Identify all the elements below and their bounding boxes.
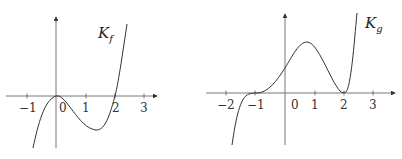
tick-label: −1 (19, 101, 37, 115)
tick-label: −1 (247, 98, 265, 112)
curve-kg (232, 13, 357, 145)
tick-label: 0 (291, 98, 299, 112)
graph-kf: −1 0 1 2 3 Kf (6, 17, 157, 148)
tick-label: 2 (340, 98, 348, 112)
graph-kg: −2 −1 0 1 2 3 Kg (206, 13, 395, 145)
curve-label-kg: Kg (364, 14, 383, 34)
tick-label: 1 (311, 98, 319, 112)
tick-label: 3 (369, 98, 377, 112)
curve-label-kf: Kf (97, 24, 115, 44)
tick-label: −2 (217, 98, 235, 112)
figure-canvas: −1 0 1 2 3 Kf −2 −1 0 1 2 3 Kg (0, 0, 402, 159)
tick-label: 0 (59, 101, 67, 115)
tick-label: 3 (140, 101, 148, 115)
tick-label: 1 (82, 101, 90, 115)
